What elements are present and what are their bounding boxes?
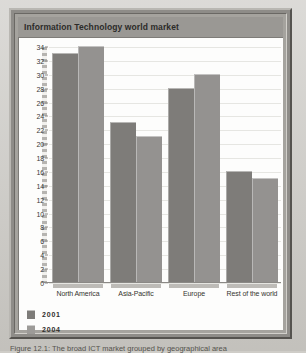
y-tick-label: 30 [37, 71, 44, 78]
y-tick-label: 18 [37, 155, 44, 162]
y-tick-label: 12 [37, 196, 44, 203]
y-tick-mark [45, 116, 48, 117]
y-tick-mark [45, 47, 48, 48]
x-tick-label: Rest of the world [223, 290, 281, 297]
y-tick-mark [45, 74, 48, 75]
category-base-plate [169, 284, 219, 288]
y-tick-mark [45, 88, 48, 89]
bar-group [223, 47, 281, 283]
legend-item[interactable]: 2004 [27, 325, 61, 334]
bar[interactable] [252, 178, 278, 283]
y-tick-mark [45, 241, 48, 242]
legend-item[interactable]: 2001 [27, 310, 61, 319]
axis-decorative-band [42, 47, 47, 283]
bar[interactable] [52, 53, 78, 283]
y-tick-label: 14 [37, 182, 44, 189]
y-tick-mark [45, 227, 48, 228]
y-tick-mark [45, 130, 48, 131]
plot-area: 3432302826242220181614121086420 [49, 47, 281, 283]
y-tick-label: 0 [40, 280, 44, 287]
category-base-plate [53, 284, 103, 288]
category-base-plate [227, 284, 277, 288]
x-axis-labels: North AmericaAsia-PacificEuropeRest of t… [49, 290, 281, 297]
y-tick-label: 6 [40, 238, 44, 245]
bar[interactable] [136, 136, 162, 283]
bar-group [107, 47, 165, 283]
figure-inner-bevel: Information Technology world market 3432… [14, 13, 287, 334]
bars-layer [49, 47, 281, 283]
bar[interactable] [194, 74, 220, 283]
y-tick-label: 10 [37, 210, 44, 217]
y-tick-mark [45, 185, 48, 186]
legend-label: 2004 [42, 326, 61, 333]
bar[interactable] [168, 88, 194, 283]
figure-frame: Information Technology world market 3432… [9, 8, 292, 339]
legend-swatch [27, 310, 35, 319]
y-tick-mark [45, 171, 48, 172]
chart-title: Information Technology world market [18, 22, 179, 32]
chart-legend: 20012004 [27, 310, 61, 340]
x-tick-label: North America [49, 290, 107, 297]
bar[interactable] [110, 122, 136, 283]
legend-label: 2001 [42, 311, 61, 318]
y-tick-label: 22 [37, 127, 44, 134]
y-tick-mark [45, 199, 48, 200]
figure-caption: Figure 12.1: The broad ICT market groupe… [10, 344, 300, 353]
x-axis-baseline [41, 282, 281, 283]
bar[interactable] [226, 171, 252, 283]
y-tick-label: 28 [37, 85, 44, 92]
legend-swatch [27, 325, 35, 334]
y-tick-label: 4 [40, 252, 44, 259]
y-tick-label: 26 [37, 99, 44, 106]
y-tick-mark [45, 255, 48, 256]
x-tick-label: Europe [165, 290, 223, 297]
y-tick-mark [45, 144, 48, 145]
y-tick-label: 34 [37, 44, 44, 51]
y-tick-mark [45, 158, 48, 159]
y-tick-label: 8 [40, 224, 44, 231]
y-tick-mark [45, 60, 48, 61]
bar-group [49, 47, 107, 283]
y-tick-mark [45, 102, 48, 103]
y-tick-label: 20 [37, 141, 44, 148]
chart-canvas: 3432302826242220181614121086420 North Am… [18, 37, 283, 330]
bar[interactable] [78, 46, 104, 283]
y-tick-label: 16 [37, 168, 44, 175]
y-tick-label: 2 [40, 266, 44, 273]
y-tick-mark [45, 213, 48, 214]
x-tick-label: Asia-Pacific [107, 290, 165, 297]
y-tick-label: 24 [37, 113, 44, 120]
category-base-plate [111, 284, 161, 288]
chart-title-band: Information Technology world market [18, 17, 283, 37]
y-tick-mark [45, 269, 48, 270]
bar-group [165, 47, 223, 283]
y-tick-label: 32 [37, 57, 44, 64]
